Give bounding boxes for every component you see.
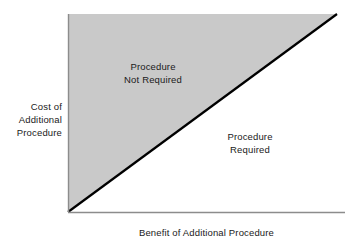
y-axis-title-line-3: Procedure [0,126,62,139]
cost-benefit-diagram: Cost of Additional Procedure Benefit of … [0,0,357,247]
x-axis-title: Benefit of Additional Procedure [68,226,345,239]
region-label-required-line-1: Procedure [210,130,290,143]
y-axis-title-line-1: Cost of [0,100,62,113]
y-axis-title: Cost of Additional Procedure [0,100,62,139]
region-label-not-required-line-1: Procedure [113,60,193,73]
region-label-not-required-line-2: Not Required [113,73,193,86]
region-label-not-required: Procedure Not Required [113,60,193,86]
region-label-required: Procedure Required [210,130,290,156]
y-axis-title-line-2: Additional [0,113,62,126]
region-label-required-line-2: Required [210,143,290,156]
